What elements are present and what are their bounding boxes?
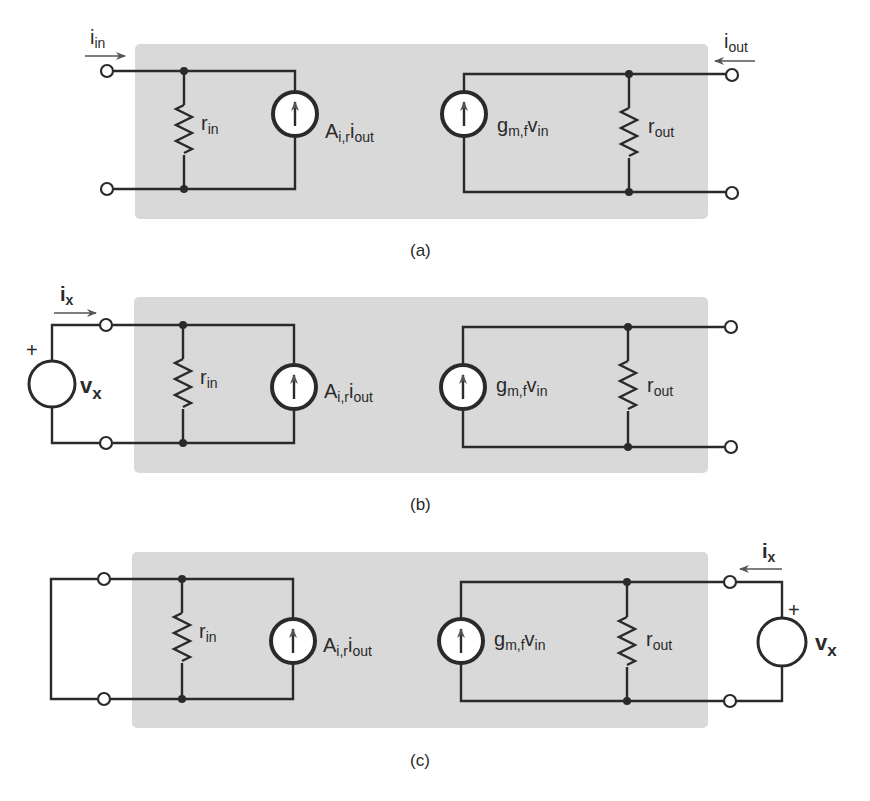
caption-a: (a)	[410, 241, 431, 260]
label-i-x: ix	[762, 540, 776, 565]
caption-b: (b)	[410, 495, 431, 514]
output-terminal-bottom	[724, 695, 736, 707]
input-short-wire	[51, 579, 98, 699]
output-terminal-top	[725, 321, 737, 333]
circuit-figure: iin iout rin Ai,riout gm,fvin rout (a) +…	[0, 0, 870, 801]
label-v-x: vx	[80, 373, 102, 403]
voltage-source-vx	[29, 361, 75, 407]
label-i-out: iout	[724, 30, 748, 55]
input-terminal-top	[100, 319, 112, 331]
voltage-source-vx	[758, 618, 806, 666]
polarity-plus: +	[26, 339, 38, 361]
input-terminal-bottom	[100, 437, 112, 449]
caption-c: (c)	[410, 751, 430, 770]
panel-c: + ix vx rin Ai,riout gm,fvin rout (c)	[51, 540, 837, 770]
input-terminal-top	[101, 65, 113, 77]
label-i-x: ix	[60, 283, 74, 308]
output-terminal-top	[726, 69, 738, 81]
input-terminal-bottom	[101, 183, 113, 195]
label-v-x: vx	[815, 630, 837, 660]
panel-b: + ix vx rin Ai,riout gm,fvin rout (b)	[26, 283, 737, 514]
output-terminal-bottom	[725, 441, 737, 453]
input-terminal-bottom	[98, 693, 110, 705]
output-terminal-bottom	[726, 187, 738, 199]
output-terminal-top	[724, 576, 736, 588]
panel-a: iin iout rin Ai,riout gm,fvin rout (a)	[85, 26, 755, 260]
polarity-plus: +	[788, 599, 800, 621]
input-terminal-top	[98, 573, 110, 585]
label-i-in: iin	[90, 26, 105, 51]
